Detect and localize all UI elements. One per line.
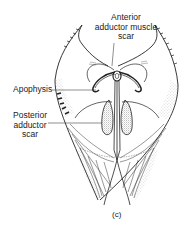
cardinal-process xyxy=(113,71,121,81)
label-anterior-adductor-scar: Anterior adductor muscle scar xyxy=(86,13,166,42)
cardinal-process-inner xyxy=(115,73,119,78)
lower-tip-left xyxy=(104,160,117,205)
label-anterior-line3: scar xyxy=(86,32,166,42)
shell-outline-left xyxy=(55,25,98,200)
leader-anterior xyxy=(112,43,114,66)
label-apophysis: Apophysis xyxy=(13,85,52,95)
label-posterior-line3: scar xyxy=(10,130,50,140)
lower-left-stipple xyxy=(76,150,102,200)
figure-caption: (c) xyxy=(112,210,121,220)
right-edge-stipple xyxy=(158,80,178,120)
posterior-adductor-scar-left xyxy=(102,100,113,135)
median-septum xyxy=(114,81,120,160)
label-posterior-adductor-scar: Posterior adductor scar xyxy=(10,111,50,140)
lower-right-stipple xyxy=(132,150,158,200)
left-edge-stipple xyxy=(55,78,74,118)
posterior-adductor-scar-right xyxy=(121,100,132,135)
